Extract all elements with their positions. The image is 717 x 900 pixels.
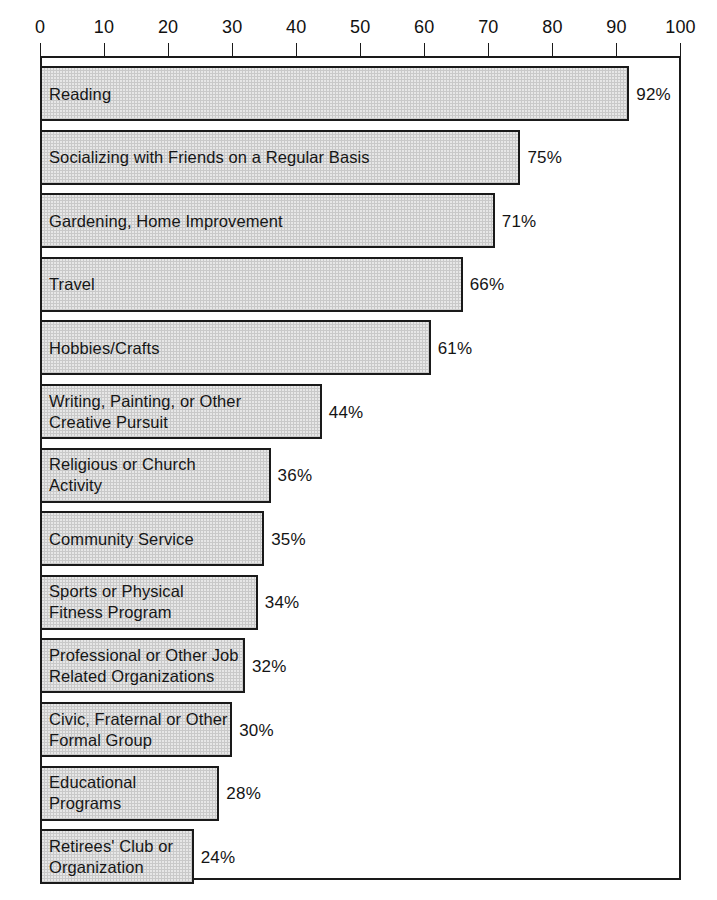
axis-tick-mark: [40, 43, 41, 56]
axis-tick-label: 100: [665, 18, 696, 36]
bar-value-label: 30%: [239, 721, 274, 738]
bar-chart: 0102030405060708090100 Reading92%Sociali…: [0, 0, 717, 900]
bar-rect[interactable]: [40, 66, 629, 121]
bar-row[interactable]: Educational Programs28%: [40, 766, 681, 821]
bar-row[interactable]: Socializing with Friends on a Regular Ba…: [40, 130, 681, 185]
axis-tick-label: 30: [222, 18, 242, 36]
bar-row[interactable]: Community Service35%: [40, 511, 681, 566]
axis-tick-mark: [552, 43, 553, 56]
bar-value-label: 36%: [278, 467, 313, 484]
bar-rect[interactable]: [40, 638, 245, 693]
bar-rect[interactable]: [40, 320, 431, 375]
axis-tick-mark: [424, 43, 425, 56]
bar-value-label: 92%: [636, 85, 671, 102]
bar-rect[interactable]: [40, 130, 520, 185]
bar-value-label: 28%: [226, 785, 261, 802]
axis-tick-label: 0: [35, 18, 45, 36]
bar-value-label: 61%: [438, 339, 473, 356]
x-axis: 0102030405060708090100: [0, 0, 717, 57]
axis-tick-mark: [488, 43, 489, 56]
axis-tick-label: 90: [606, 18, 626, 36]
axis-tick-mark: [168, 43, 169, 56]
bar-rect[interactable]: [40, 766, 219, 821]
bar-row[interactable]: Travel66%: [40, 257, 681, 312]
axis-tick-mark: [104, 43, 105, 56]
bar-rect[interactable]: [40, 702, 232, 757]
axis-tick-label: 80: [542, 18, 562, 36]
axis-tick-label: 60: [414, 18, 434, 36]
axis-tick-label: 10: [94, 18, 114, 36]
bar-value-label: 24%: [201, 848, 236, 865]
bar-value-label: 32%: [252, 657, 287, 674]
axis-tick-label: 70: [478, 18, 498, 36]
axis-tick-label: 50: [350, 18, 370, 36]
bar-rect[interactable]: [40, 448, 271, 503]
bar-row[interactable]: Religious or Church Activity36%: [40, 448, 681, 503]
bar-row[interactable]: Professional or Other Job Related Organi…: [40, 638, 681, 693]
bar-row[interactable]: Gardening, Home Improvement71%: [40, 193, 681, 248]
axis-tick-mark: [232, 43, 233, 56]
bar-value-label: 34%: [265, 594, 300, 611]
bar-row[interactable]: Civic, Fraternal or Other Formal Group30…: [40, 702, 681, 757]
bar-value-label: 44%: [329, 403, 364, 420]
axis-tick-mark: [296, 43, 297, 56]
axis-tick-label: 40: [286, 18, 306, 36]
bar-row[interactable]: Writing, Painting, or Other Creative Pur…: [40, 384, 681, 439]
bar-value-label: 35%: [271, 530, 306, 547]
bar-rect[interactable]: [40, 511, 264, 566]
axis-tick-label: 20: [158, 18, 178, 36]
bar-rect[interactable]: [40, 575, 258, 630]
axis-tick-mark: [360, 43, 361, 56]
bar-rect[interactable]: [40, 384, 322, 439]
axis-tick-mark: [680, 43, 681, 56]
bar-value-label: 75%: [527, 149, 562, 166]
bar-row[interactable]: Reading92%: [40, 66, 681, 121]
bar-value-label: 66%: [470, 276, 505, 293]
bar-value-label: 71%: [502, 212, 537, 229]
bar-rect[interactable]: [40, 193, 495, 248]
bar-row[interactable]: Retirees' Club or Organization24%: [40, 829, 681, 884]
bar-rect[interactable]: [40, 829, 194, 884]
axis-tick-mark: [616, 43, 617, 56]
bars-layer: Reading92%Socializing with Friends on a …: [40, 56, 681, 880]
bar-row[interactable]: Sports or Physical Fitness Program34%: [40, 575, 681, 630]
bar-rect[interactable]: [40, 257, 463, 312]
bar-row[interactable]: Hobbies/Crafts61%: [40, 320, 681, 375]
